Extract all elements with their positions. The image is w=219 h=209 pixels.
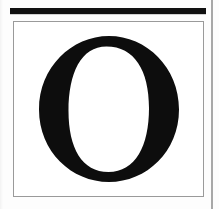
letter-o-path [39,36,179,182]
letter-o-glyph-icon [39,36,179,182]
right-margin-rule [211,0,213,209]
scan-edge-shading [0,0,3,209]
scanned-page: O Scanned page showing a single large se… [0,0,219,209]
specimen-letter-container: O [14,22,203,196]
specimen-frame: O [13,21,204,197]
top-horizontal-rule [10,8,206,14]
